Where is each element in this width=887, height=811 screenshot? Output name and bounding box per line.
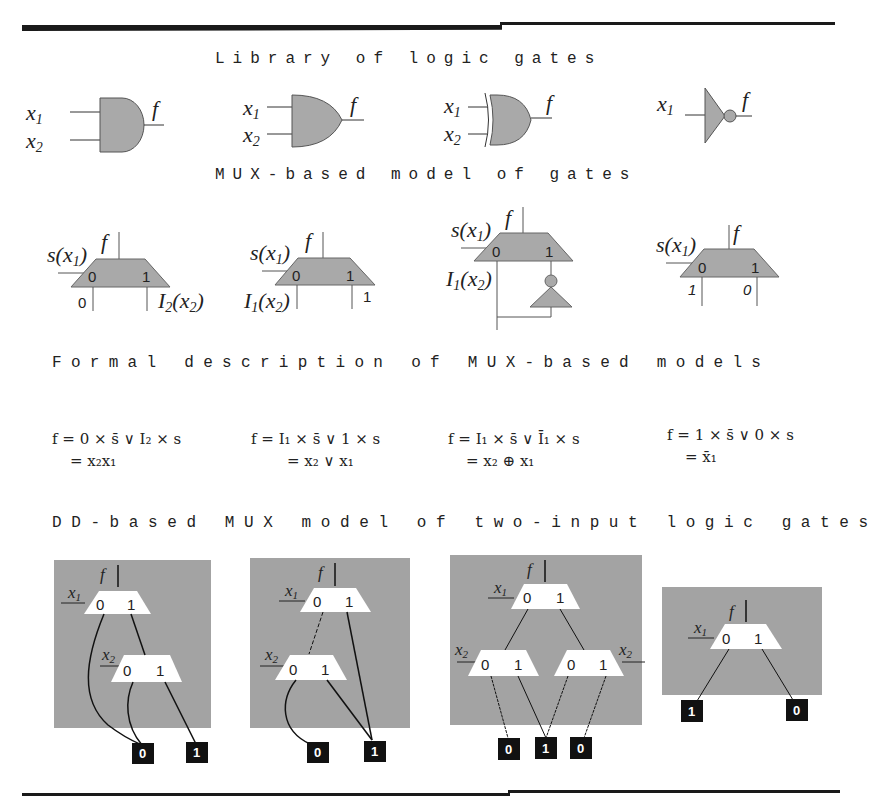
dd-port1: 1 — [345, 593, 353, 610]
dd-not-model: f x1 0 1 1 0 — [662, 587, 822, 722]
dd-port0: 0 — [523, 589, 531, 606]
or-label-x2: x2 — [242, 122, 260, 149]
terminal-label: 0 — [793, 703, 800, 718]
terminal-label: 0 — [505, 742, 512, 757]
dd-port1: 1 — [127, 596, 135, 613]
terminal-label: 1 — [542, 741, 549, 756]
terminal-label: 0 — [314, 745, 321, 760]
mux-select-label: s(x1) — [250, 240, 290, 267]
not-label-x1: x1 — [656, 91, 674, 118]
dd-port0: 0 — [123, 662, 131, 679]
dd-port1: 1 — [321, 661, 329, 678]
not-label-f: f — [742, 87, 751, 112]
mux-port0: 0 — [698, 259, 706, 276]
mux-port0: 0 — [292, 267, 300, 284]
formula-line2: = x₂x₁ — [52, 450, 181, 472]
dd-port1: 1 — [754, 630, 762, 647]
formula-xor: f = I₁ × s̄ ∨ Ī₁ × s = x₂ ⊕ x₁ — [448, 428, 580, 472]
formula-not: f = 1 × s̄ ∨ 0 × s = x̄₁ — [667, 424, 794, 468]
dd-port0: 0 — [313, 593, 321, 610]
and-label-x2: x2 — [25, 128, 43, 155]
diagram-canvas: x1 x2 f x1 x2 f x1 x2 f x1 f — [0, 0, 887, 811]
formula-line1: f = I₁ × s̄ ∨ 1 × s — [251, 428, 380, 450]
mux-select-label: s(x1) — [656, 232, 696, 259]
mux-input0: 1 — [688, 281, 696, 298]
mux-select-label: s(x1) — [451, 217, 491, 244]
terminal-label: 0 — [577, 741, 584, 756]
xor-label-f: f — [546, 90, 555, 115]
mux-and-model: 0 1 f s(x1) 0 I2(x2) — [47, 229, 204, 315]
mux-select-label: s(x1) — [47, 242, 87, 269]
dd-port0: 0 — [722, 630, 730, 647]
dd-port0: 0 — [567, 656, 575, 673]
mux-input0: I1(x2) — [445, 266, 492, 293]
dd-xor-model: f x1 0 1 x2 0 1 x2 0 1 0 1 0 — [450, 555, 645, 760]
dd-port1: 1 — [514, 656, 522, 673]
dd-or-model: f x1 0 1 x2 0 1 0 1 — [250, 558, 410, 763]
terminal-label: 1 — [371, 744, 378, 759]
dd-port0: 0 — [289, 661, 297, 678]
formula-line2: = x₂ ∨ x₁ — [251, 450, 380, 472]
mux-port0: 0 — [492, 243, 500, 260]
mux-xor-model: 0 1 f s(x1) I1(x2) — [445, 205, 573, 330]
mux-out-f: f — [733, 220, 742, 245]
mux-out-f: f — [101, 229, 110, 254]
terminal-label: 1 — [688, 704, 695, 719]
formula-line2: = x̄₁ — [667, 446, 794, 468]
mux-not-model: 0 1 f s(x1) 1 0 — [656, 220, 779, 306]
formula-or: f = I₁ × s̄ ∨ 1 × s = x₂ ∨ x₁ — [251, 428, 380, 472]
or-gate-icon: x1 x2 f — [242, 92, 364, 149]
mux-port1: 1 — [346, 267, 354, 284]
mux-input1: I2(x2) — [157, 288, 204, 315]
dd-port1: 1 — [556, 589, 564, 606]
formula-line1: f = 1 × s̄ ∨ 0 × s — [667, 424, 794, 446]
mux-out-f: f — [505, 205, 514, 230]
dd-and-model: f x1 0 1 x2 0 1 0 1 — [54, 560, 211, 764]
mux-port1: 1 — [751, 259, 759, 276]
mux-input0: 0 — [78, 294, 86, 311]
and-gate-icon: x1 x2 f — [25, 96, 164, 155]
xor-label-x1: x1 — [443, 93, 461, 120]
or-label-f: f — [350, 92, 359, 117]
mux-port0: 0 — [88, 268, 96, 285]
and-label-x1: x1 — [25, 100, 43, 127]
mux-or-model: 0 1 f s(x1) I1(x2) 1 — [243, 228, 375, 315]
dd-port1: 1 — [599, 656, 607, 673]
dd-port0: 0 — [481, 656, 489, 673]
dd-port0: 0 — [96, 596, 104, 613]
mux-input1: 0 — [743, 281, 752, 298]
mux-input1: 1 — [363, 288, 371, 305]
terminal-label: 0 — [139, 746, 146, 761]
terminal-label: 1 — [193, 745, 200, 760]
mux-input0: I1(x2) — [243, 288, 290, 315]
mux-port1: 1 — [142, 268, 150, 285]
mux-port1: 1 — [545, 243, 553, 260]
formula-line1: f = I₁ × s̄ ∨ Ī₁ × s — [448, 428, 580, 450]
xor-label-x2: x2 — [443, 121, 461, 148]
or-label-x1: x1 — [242, 95, 260, 122]
mux-out-f: f — [305, 228, 314, 253]
formula-line2: = x₂ ⊕ x₁ — [448, 450, 580, 472]
formula-line1: f = 0 × s̄ ∨ I₂ × s — [52, 428, 181, 450]
and-label-f: f — [152, 96, 161, 121]
formula-and: f = 0 × s̄ ∨ I₂ × s = x₂x₁ — [52, 428, 181, 472]
not-gate-icon: x1 f — [656, 87, 752, 143]
dd-port1: 1 — [156, 662, 164, 679]
